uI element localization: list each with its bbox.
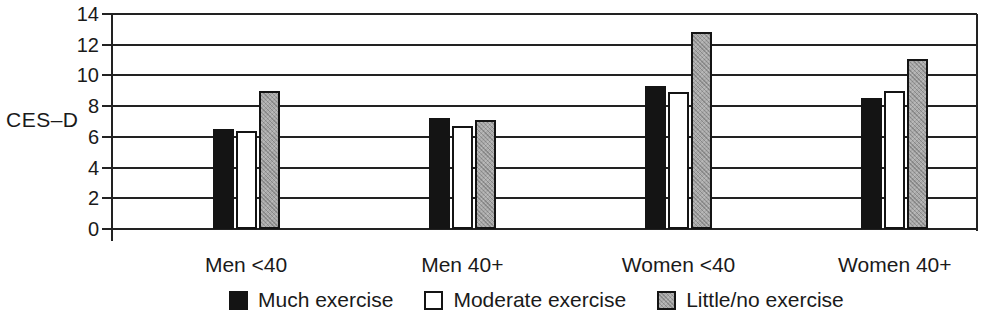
bar xyxy=(861,98,882,229)
y-tick-label: 2 xyxy=(0,187,99,209)
y-tick-label: 0 xyxy=(0,218,99,240)
bar xyxy=(907,59,928,229)
y-tick-label: 8 xyxy=(0,95,99,117)
y-tick-label: 12 xyxy=(0,34,99,56)
bar xyxy=(668,92,689,229)
bar xyxy=(691,32,712,229)
legend-label: Little/no exercise xyxy=(686,288,844,312)
legend-label: Moderate exercise xyxy=(453,288,626,312)
y-axis-tick xyxy=(102,228,112,230)
legend-item: Little/no exercise xyxy=(657,288,844,312)
y-axis-tick xyxy=(102,74,112,76)
legend: Much exerciseModerate exerciseLittle/no … xyxy=(229,288,844,312)
y-tick-label: 4 xyxy=(0,157,99,179)
bar xyxy=(884,91,905,229)
bar xyxy=(452,126,473,229)
bar-group xyxy=(429,14,496,229)
y-tick-label: 14 xyxy=(0,3,99,25)
bar xyxy=(475,120,496,229)
y-axis-tick xyxy=(102,44,112,46)
bar xyxy=(259,91,280,229)
bar-group xyxy=(645,14,712,229)
bar-group xyxy=(861,14,928,229)
bar-group xyxy=(213,14,280,229)
plot-area xyxy=(112,14,977,229)
x-category-label: Men <40 xyxy=(205,253,287,277)
legend-label: Much exercise xyxy=(258,288,393,312)
bar xyxy=(429,118,450,229)
legend-item: Much exercise xyxy=(229,288,393,312)
bar xyxy=(645,86,666,229)
y-axis-tick xyxy=(102,197,112,199)
bar xyxy=(236,131,257,229)
y-tick-label: 10 xyxy=(0,64,99,86)
x-category-label: Women <40 xyxy=(622,253,735,277)
legend-swatch-little-no-exercise xyxy=(657,291,676,310)
y-axis-tick xyxy=(102,167,112,169)
y-axis-tick xyxy=(102,105,112,107)
x-category-label: Women 40+ xyxy=(838,253,951,277)
legend-swatch-much-exercise xyxy=(229,291,248,310)
legend-item: Moderate exercise xyxy=(424,288,626,312)
y-axis-tick xyxy=(102,13,112,15)
bar xyxy=(213,129,234,229)
y-tick-label: 6 xyxy=(0,126,99,148)
ces-d-exercise-bar-chart: CES–D Much exerciseModerate exerciseLitt… xyxy=(0,0,981,324)
legend-swatch-moderate-exercise xyxy=(424,291,443,310)
y-axis-tick xyxy=(102,136,112,138)
x-category-label: Men 40+ xyxy=(421,253,503,277)
